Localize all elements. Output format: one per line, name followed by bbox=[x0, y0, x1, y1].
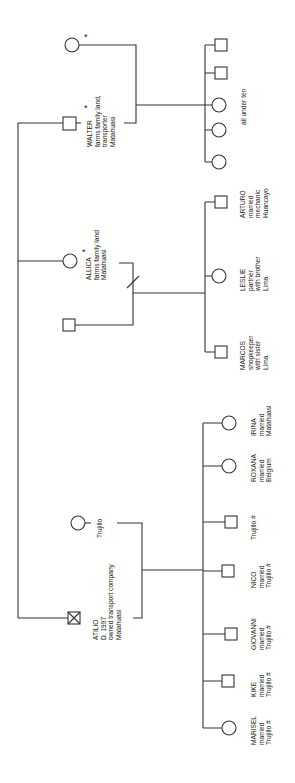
marcos-label: MARCOS shopkeeper with sister Lima bbox=[239, 336, 269, 370]
nico-detail: married bbox=[258, 563, 266, 588]
walter-spouse-star: * bbox=[84, 33, 88, 42]
roxana-label: ROXANA married Belgium bbox=[250, 454, 273, 482]
spouse-origin: Trujillo bbox=[96, 519, 104, 538]
nico-detail: Trujillo # bbox=[265, 563, 273, 588]
trujillo-son-label: Trujillo # bbox=[250, 515, 258, 540]
walter-male-symbol bbox=[63, 117, 76, 130]
walter-child-female-symbol bbox=[212, 123, 226, 137]
leslie-detail: partner bbox=[247, 257, 255, 291]
atilio-detail: Matahuasi bbox=[115, 564, 123, 640]
marisel-name: MARISEL bbox=[250, 716, 258, 745]
marcos-name: MARCOS bbox=[239, 336, 247, 370]
leslie-label: LESLIE partner with brother Lima bbox=[239, 257, 269, 291]
marisel-detail: married bbox=[258, 716, 266, 745]
kike-male-symbol bbox=[222, 675, 234, 687]
giovanni-male-symbol bbox=[225, 628, 237, 640]
giovanni-detail: married bbox=[258, 618, 266, 650]
kike-detail: married bbox=[258, 672, 266, 697]
kike-detail: Trujillo # bbox=[265, 672, 273, 697]
children-note: all under ten bbox=[240, 89, 248, 125]
nico-male-symbol bbox=[222, 565, 234, 577]
arturo-detail: mechanic bbox=[254, 188, 262, 218]
trujillo-son-male-symbol bbox=[225, 516, 237, 528]
allica-detail: farms family land bbox=[93, 230, 101, 280]
leslie-detail: Lima bbox=[262, 257, 270, 291]
walter-child-male-symbol bbox=[215, 39, 227, 51]
walter-detail: Matahuasi bbox=[109, 95, 117, 147]
allica-label: ALLICA farms family land Matahuasi bbox=[85, 230, 108, 280]
walter-label: WALTER farms family land, transporter Ma… bbox=[86, 95, 116, 147]
walter-child-female-symbol bbox=[212, 98, 226, 112]
arturo-detail: married bbox=[247, 188, 255, 218]
allica-detail: Matahuasi bbox=[100, 230, 108, 280]
arturo-label: ARTURO married mechanic Huancayo bbox=[239, 188, 269, 218]
walter-name: WALTER bbox=[86, 95, 94, 147]
walter-detail: transporter bbox=[101, 95, 109, 147]
trujillo-son-detail: Trujillo # bbox=[250, 515, 258, 540]
marcos-detail: shopkeeper bbox=[247, 336, 255, 370]
kike-label: KIKE married Trujillo # bbox=[250, 672, 273, 697]
walter-children-label: all under ten bbox=[240, 89, 248, 125]
marcos-detail: with sister bbox=[254, 336, 262, 370]
walter-child-female-symbol bbox=[212, 155, 226, 169]
giovanni-label: GIOVANNI married Trujillo # bbox=[250, 618, 273, 650]
atilio-name: ATILIO bbox=[92, 564, 100, 640]
leslie-female-symbol bbox=[212, 269, 226, 283]
atilio-detail: owned transport company bbox=[107, 564, 115, 640]
leslie-detail: with brother bbox=[254, 257, 262, 291]
atilio-detail: D. 1997 bbox=[100, 564, 108, 640]
arturo-detail: Huancayo bbox=[262, 188, 270, 218]
roxana-detail: Belgium bbox=[265, 454, 273, 482]
irina-detail: Matahuasi bbox=[265, 406, 273, 436]
roxana-detail: married bbox=[258, 454, 266, 482]
marcos-detail: Lima bbox=[262, 336, 270, 370]
arturo-name: ARTURO bbox=[239, 188, 247, 218]
giovanni-name: GIOVANNI bbox=[250, 618, 258, 650]
leslie-name: LESLIE bbox=[239, 257, 247, 291]
marcos-male-symbol bbox=[215, 346, 227, 358]
allica-name: ALLICA bbox=[85, 230, 93, 280]
walter-spouse-female-symbol bbox=[65, 38, 79, 52]
allica-partner-male-symbol bbox=[63, 319, 75, 331]
atilio-label: ATILIO D. 1997 owned transport company M… bbox=[92, 564, 122, 640]
trujillo-label: Trujillo bbox=[96, 519, 104, 538]
marisel-detail: Trujillo # bbox=[265, 716, 273, 745]
walter-detail: farms family land, bbox=[94, 95, 102, 147]
kike-name: KIKE bbox=[250, 672, 258, 697]
roxana-name: ROXANA bbox=[250, 454, 258, 482]
nico-label: NICO married Trujillo # bbox=[250, 563, 273, 588]
kinship-diagram bbox=[0, 0, 295, 783]
allica-female-symbol bbox=[63, 254, 77, 268]
irina-detail: married bbox=[258, 406, 266, 436]
irina-label: IRINA married Matahuasi bbox=[250, 406, 273, 436]
trujillo-spouse-female-symbol bbox=[71, 516, 85, 530]
marisel-label: MARISEL married Trujillo # bbox=[250, 716, 273, 745]
irina-name: IRINA bbox=[250, 406, 258, 436]
marisel-female-symbol bbox=[222, 721, 236, 735]
nico-name: NICO bbox=[250, 563, 258, 588]
roxana-female-symbol bbox=[222, 459, 236, 473]
irina-female-symbol bbox=[222, 416, 236, 430]
walter-child-male-symbol bbox=[215, 67, 227, 79]
arturo-male-symbol bbox=[215, 196, 227, 208]
giovanni-detail: Trujillo # bbox=[265, 618, 273, 650]
